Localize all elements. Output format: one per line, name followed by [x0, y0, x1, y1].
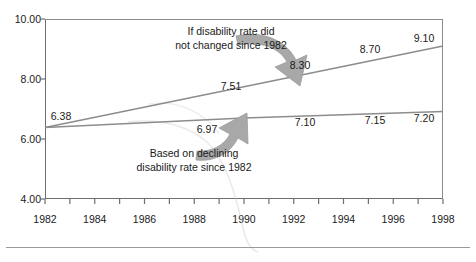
annotation-line: If disability rate did	[175, 24, 287, 38]
point-label: 8.70	[360, 43, 380, 55]
point-label: 7.20	[414, 112, 434, 124]
bottom-divider	[6, 247, 470, 248]
chart-figure: 10.00 8.00 6.00 4.00 1982 1984 1986 1988…	[0, 0, 476, 262]
point-label: 6.38	[51, 110, 71, 122]
x-tick-marks	[45, 199, 443, 204]
point-label: 8.30	[290, 59, 310, 71]
annotation-declining: Based on declining disability rate since…	[137, 146, 252, 174]
annotation-line: disability rate since 1982	[137, 160, 252, 174]
annotation-line: not changed since 1982	[175, 38, 287, 52]
point-label: 7.51	[221, 80, 241, 92]
point-label: 9.10	[414, 32, 434, 44]
annotation-line: Based on declining	[137, 146, 252, 160]
point-label: 7.15	[365, 114, 385, 126]
annotation-unchanged: If disability rate did not changed since…	[175, 24, 287, 52]
y-tick-marks	[40, 19, 45, 199]
point-label: 7.10	[295, 116, 315, 128]
point-label: 6.97	[197, 123, 217, 135]
